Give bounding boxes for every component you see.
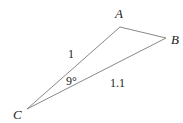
vertex-label-a: A (114, 6, 123, 21)
edge-ab (120, 27, 166, 38)
side-length-cb: 1.1 (110, 76, 125, 90)
vertex-label-c: C (13, 107, 22, 122)
vertex-label-b: B (171, 32, 179, 47)
angle-c-label: 9° (66, 74, 77, 88)
edge-ac (27, 27, 120, 109)
triangle-diagram: A B C 1 9° 1.1 (0, 0, 183, 123)
edge-bc (27, 38, 166, 109)
side-length-ca: 1 (68, 47, 74, 61)
